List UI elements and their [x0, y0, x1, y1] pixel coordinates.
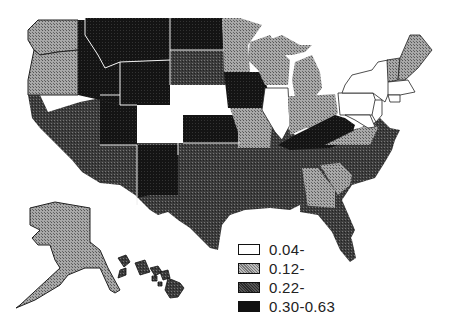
legend-label: 0.22- [269, 279, 305, 296]
state-nd [170, 18, 224, 50]
legend-swatch-1 [238, 263, 260, 274]
legend-item-2: 0.22- [238, 278, 335, 297]
state-me-nh [398, 35, 432, 80]
legend-item-3: 0.30-0.63 [238, 297, 335, 316]
state-wa [28, 20, 78, 55]
legend-label: 0.04- [269, 241, 305, 258]
map-legend: 0.04- 0.12- 0.22- 0.30-0.63 [238, 240, 335, 316]
legend-item-1: 0.12- [238, 259, 335, 278]
state-ut [100, 100, 137, 145]
legend-swatch-2 [238, 282, 260, 293]
state-ak [16, 202, 120, 308]
state-mi [292, 55, 322, 97]
state-ma [388, 80, 415, 95]
legend-label: 0.30-0.63 [269, 298, 335, 315]
state-nm [137, 145, 178, 198]
legend-swatch-3 [238, 301, 260, 312]
state-ia [224, 72, 268, 108]
state-ks [183, 115, 240, 143]
state-ct [388, 95, 400, 102]
state-pa [338, 93, 378, 115]
state-sd [170, 50, 228, 85]
legend-item-0: 0.04- [238, 240, 335, 259]
legend-swatch-0 [238, 244, 260, 255]
state-wy [120, 60, 170, 105]
us-choropleth-map [0, 0, 451, 324]
state-in [288, 96, 306, 135]
state-hi [118, 255, 184, 298]
state-co [137, 105, 183, 143]
state-or [28, 50, 78, 95]
legend-label: 0.12- [269, 260, 305, 277]
